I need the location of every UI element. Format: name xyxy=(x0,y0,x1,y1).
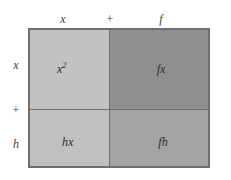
top-axis-term-f: f xyxy=(148,13,174,25)
top-axis-term-x: x xyxy=(50,13,76,25)
cell-label-f-times-x: fx xyxy=(157,63,166,75)
top-axis-operator-plus: + xyxy=(101,13,119,25)
area-model-grid: x2 fx hx fh xyxy=(28,28,210,168)
cell-f-times-x: fx xyxy=(110,30,208,110)
left-axis-term-x: x xyxy=(8,59,24,71)
area-model-figure: x + f x + h x2 fx hx fh xyxy=(0,0,231,180)
cell-label-f-times-h: fh xyxy=(158,136,167,148)
cell-label-x-squared: x2 xyxy=(57,63,66,75)
cell-h-times-x: hx xyxy=(30,110,110,166)
left-axis-term-h: h xyxy=(8,138,24,150)
cell-label-h-times-x: hx xyxy=(62,136,73,148)
cell-label-x-squared-exponent: 2 xyxy=(62,61,66,70)
cell-f-times-h: fh xyxy=(110,110,208,166)
left-axis-operator-plus: + xyxy=(8,104,24,116)
cell-x-squared: x2 xyxy=(30,30,110,110)
